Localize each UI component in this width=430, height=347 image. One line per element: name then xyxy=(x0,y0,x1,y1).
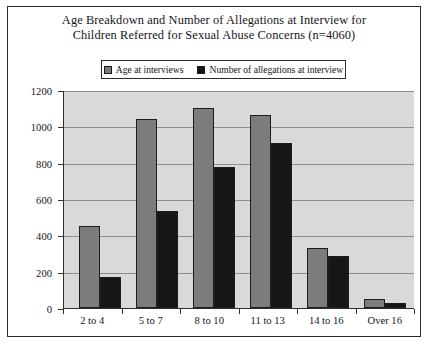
y-axis-tick-mark xyxy=(58,127,63,128)
y-axis-tick-label: 0 xyxy=(12,304,52,315)
legend-item-number-of-allegations: Number of allegations at interview xyxy=(197,64,343,75)
chart-legend: Age at interviews Number of allegations … xyxy=(101,60,346,79)
bar-group xyxy=(300,91,357,308)
chart-title-line-2: Children Referred for Sexual Abuse Conce… xyxy=(8,28,420,43)
x-axis-label: 8 to 10 xyxy=(180,315,239,326)
y-axis-tick-mark xyxy=(58,200,63,201)
bar-group xyxy=(128,91,185,308)
bar-series-b[interactable] xyxy=(100,277,121,308)
bar-series-a[interactable] xyxy=(79,226,100,308)
bar-series-b[interactable] xyxy=(157,211,178,308)
y-axis-tick-mark xyxy=(58,91,63,92)
x-axis-labels: 2 to 45 to 78 to 1011 to 1314 to 16Over … xyxy=(63,315,414,326)
x-axis-label: 14 to 16 xyxy=(297,315,356,326)
bar-series-b[interactable] xyxy=(271,143,292,308)
bar-series-b[interactable] xyxy=(214,167,235,308)
bar-series-b[interactable] xyxy=(328,256,349,308)
bar-group xyxy=(243,91,300,308)
bar-series-a[interactable] xyxy=(364,299,385,308)
y-axis-tick-label: 800 xyxy=(12,158,52,169)
x-axis-tick-mark xyxy=(63,309,64,314)
x-axis-tick-mark xyxy=(122,309,123,314)
legend-swatch-series-b xyxy=(197,66,205,74)
y-axis-tick-label: 1200 xyxy=(12,86,52,97)
bar-series-b[interactable] xyxy=(385,303,406,308)
x-axis-tick-mark xyxy=(180,309,181,314)
x-axis-label: Over 16 xyxy=(356,315,415,326)
y-axis-tick-label: 200 xyxy=(12,267,52,278)
x-axis-tick-mark xyxy=(356,309,357,314)
x-axis-tick-mark xyxy=(414,309,415,314)
bar-series-a[interactable] xyxy=(193,108,214,308)
bar-group xyxy=(71,91,128,308)
chart-frame: Age Breakdown and Number of Allegations … xyxy=(7,6,421,337)
legend-label-series-a: Age at interviews xyxy=(116,64,184,75)
plot-canvas xyxy=(63,91,414,309)
x-axis-tick-mark xyxy=(239,309,240,314)
plot-area: 020040060080010001200 xyxy=(56,91,414,309)
chart-title-line-1: Age Breakdown and Number of Allegations … xyxy=(8,13,420,28)
y-axis-tick-label: 600 xyxy=(12,195,52,206)
y-axis-tick-mark xyxy=(58,164,63,165)
y-axis-tick-mark xyxy=(58,273,63,274)
legend-swatch-series-a xyxy=(104,66,112,74)
x-axis-label: 2 to 4 xyxy=(63,315,122,326)
x-axis-tick-mark xyxy=(297,309,298,314)
y-axis-tick-label: 1000 xyxy=(12,122,52,133)
y-axis-tick-mark xyxy=(58,236,63,237)
legend-item-age-at-interviews: Age at interviews xyxy=(104,64,184,75)
x-axis-label: 11 to 13 xyxy=(239,315,298,326)
chart-title: Age Breakdown and Number of Allegations … xyxy=(8,13,420,43)
bar-series-a[interactable] xyxy=(250,115,271,308)
bar-series-a[interactable] xyxy=(307,248,328,308)
x-axis-ticks xyxy=(63,309,414,314)
x-axis-label: 5 to 7 xyxy=(122,315,181,326)
bars-layer xyxy=(71,91,414,308)
bar-group xyxy=(357,91,414,308)
bar-group xyxy=(185,91,242,308)
y-axis-tick-label: 400 xyxy=(12,231,52,242)
legend-label-series-b: Number of allegations at interview xyxy=(209,64,343,75)
bar-series-a[interactable] xyxy=(136,119,157,308)
